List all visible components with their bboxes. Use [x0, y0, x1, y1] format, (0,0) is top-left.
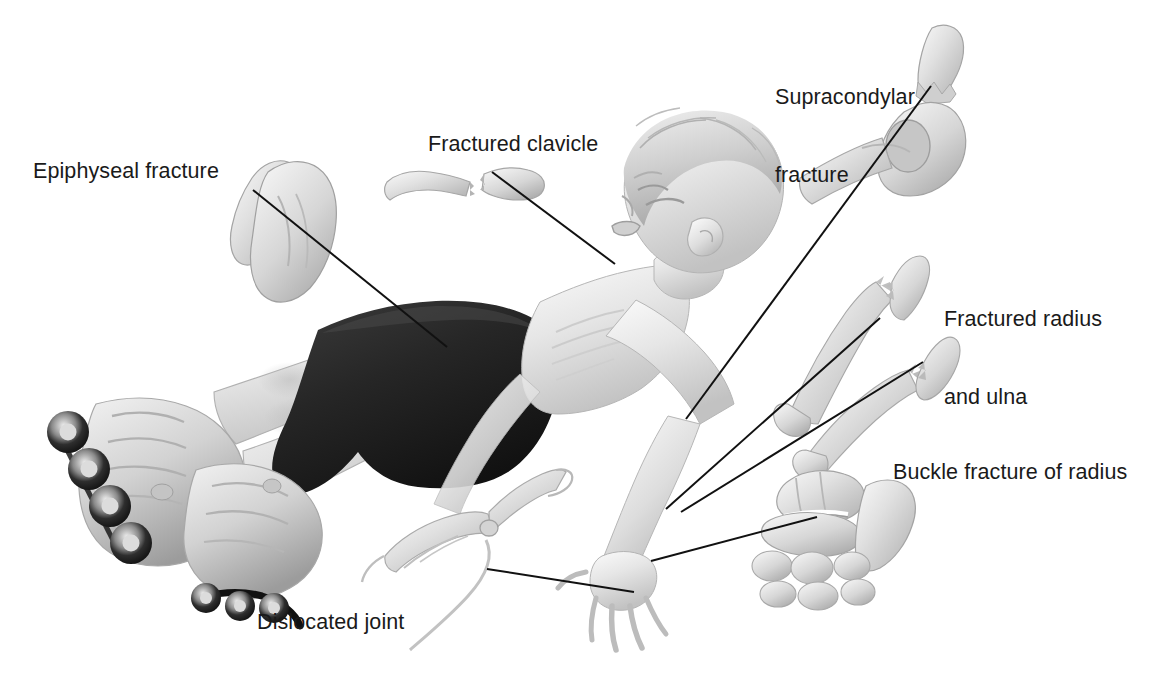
inset-fractured-radius-ulna	[774, 256, 960, 480]
label-supracondylar-fracture: Supracondylar fracture	[775, 32, 915, 240]
label-radius-ulna-line2: and ulna	[944, 384, 1102, 410]
label-fractured-clavicle: Fractured clavicle	[428, 131, 598, 157]
figure-canvas: Epiphyseal fracture Fractured clavicle S…	[0, 0, 1151, 679]
label-buckle-fracture-of-radius: Buckle fracture of radius	[893, 459, 1127, 485]
label-supracondylar-line1: Supracondylar	[775, 84, 915, 110]
child-hand	[558, 552, 666, 651]
inset-buckle-fracture	[752, 471, 915, 610]
label-epiphyseal-fracture: Epiphyseal fracture	[33, 158, 219, 184]
label-radius-ulna-line1: Fractured radius	[944, 306, 1102, 332]
inset-epiphyseal-fracture	[230, 161, 336, 302]
label-supracondylar-line2: fracture	[775, 162, 915, 188]
inline-skate-right	[184, 464, 322, 626]
child-head	[612, 108, 784, 273]
inset-fractured-clavicle	[385, 168, 545, 200]
label-dislocated-joint: Dislocated joint	[257, 609, 404, 635]
label-fractured-radius-and-ulna: Fractured radius and ulna	[944, 254, 1102, 462]
leader-line-clavicle	[492, 172, 615, 264]
